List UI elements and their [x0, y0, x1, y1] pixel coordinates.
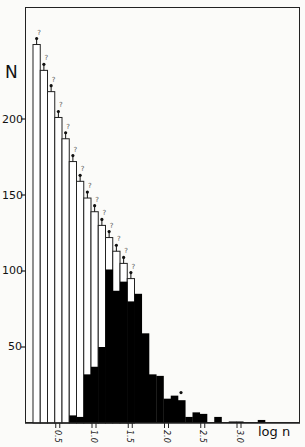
x-tick-label-2.5: 2.5	[198, 430, 207, 443]
open-bar	[40, 70, 47, 423]
dot-marker	[179, 391, 182, 394]
filled-bar	[142, 333, 150, 423]
x-tick-label-0.5: 0.5	[53, 430, 62, 443]
filled-bar	[178, 400, 186, 423]
uncertain-marker: ?	[59, 101, 63, 109]
open-bar	[77, 181, 84, 423]
x-tick-label-3.0: 3.0	[235, 430, 244, 443]
x-axis-title: log n	[258, 424, 290, 439]
filled-bar	[185, 417, 193, 423]
arrow-head-icon	[100, 218, 103, 221]
arrow-head-icon	[115, 244, 118, 247]
filled-bar	[106, 269, 114, 423]
filled-bar	[77, 417, 85, 423]
filled-bar	[171, 396, 179, 423]
uncertain-marker: ?	[110, 222, 114, 230]
arrow-head-icon	[108, 230, 111, 233]
y-tick-label-150: 150	[2, 189, 23, 202]
arrow-head-icon	[64, 131, 67, 134]
open-bar	[69, 162, 76, 423]
arrow-head-icon	[86, 190, 89, 193]
arrow-head-icon	[57, 110, 60, 113]
open-bar	[33, 45, 40, 423]
arrow-head-icon	[35, 37, 38, 40]
arrow-head-icon	[93, 204, 96, 207]
uncertain-marker: ?	[81, 165, 85, 173]
uncertain-marker: ?	[37, 29, 41, 37]
filled-bar	[84, 374, 92, 423]
uncertain-marker: ?	[44, 54, 48, 62]
uncertain-marker: ?	[52, 76, 56, 84]
filled-bar	[193, 412, 201, 423]
filled-bar	[120, 282, 128, 423]
filled-bar	[91, 367, 99, 423]
filled-bar	[98, 347, 106, 423]
uncertain-marker: ?	[95, 196, 99, 204]
open-bar	[62, 139, 69, 423]
arrow-head-icon	[50, 84, 53, 87]
open-bar	[55, 117, 62, 423]
arrow-head-icon	[42, 63, 45, 66]
y-tick-label-100: 100	[2, 264, 23, 277]
filled-bar	[156, 376, 164, 423]
filled-bar	[164, 399, 172, 423]
arrow-head-icon	[71, 154, 74, 157]
filled-bar	[214, 417, 222, 423]
uncertain-marker: ?	[66, 123, 70, 131]
uncertain-marker: ?	[102, 209, 106, 217]
filled-bar	[135, 294, 143, 423]
filled-bar	[200, 414, 208, 423]
arrow-head-icon	[122, 256, 125, 259]
filled-bar	[127, 301, 135, 423]
filled-bar	[113, 291, 121, 423]
uncertain-marker: ?	[131, 263, 135, 271]
uncertain-marker: ?	[73, 146, 77, 154]
uncertain-marker: ?	[88, 182, 92, 190]
open-bar	[48, 92, 55, 423]
x-tick-label-1.0: 1.0	[89, 430, 98, 443]
uncertain-marker: ?	[124, 247, 128, 255]
y-tick-label-50: 50	[8, 340, 22, 353]
x-tick-label-1.5: 1.5	[125, 430, 134, 443]
histogram-plot: ??????????????	[0, 0, 305, 447]
uncertain-marker: ?	[117, 235, 121, 243]
arrow-head-icon	[129, 271, 132, 274]
y-axis-title: N	[5, 62, 18, 82]
arrow-head-icon	[79, 174, 82, 177]
x-tick-label-2.0: 2.0	[162, 430, 171, 443]
filled-bar	[149, 374, 157, 423]
y-tick-label-200: 200	[2, 113, 23, 126]
filled-bar	[69, 415, 77, 423]
